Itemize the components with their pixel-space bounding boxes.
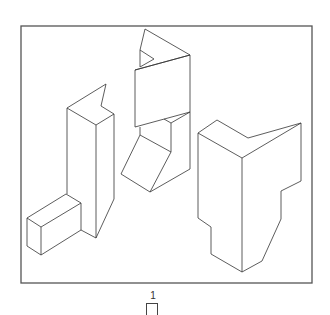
edge (121, 127, 171, 192)
edge (27, 194, 81, 227)
edge (67, 84, 114, 125)
edge (96, 114, 114, 238)
edge (198, 123, 301, 272)
edge (135, 55, 190, 127)
left-tall-block-with-step (27, 84, 114, 255)
edge (135, 55, 190, 70)
edge (41, 203, 81, 255)
isometric-objects (27, 29, 301, 272)
edge (140, 29, 154, 67)
middle-twisted-column (121, 29, 190, 192)
figure-frame (21, 26, 312, 283)
edge (81, 230, 96, 238)
edge (164, 112, 190, 123)
figure-label: 1 (146, 290, 160, 301)
figure-canvas (0, 0, 330, 315)
right-notched-block (198, 120, 301, 272)
edge (27, 218, 41, 255)
edge (198, 120, 301, 158)
answer-box (146, 303, 158, 315)
